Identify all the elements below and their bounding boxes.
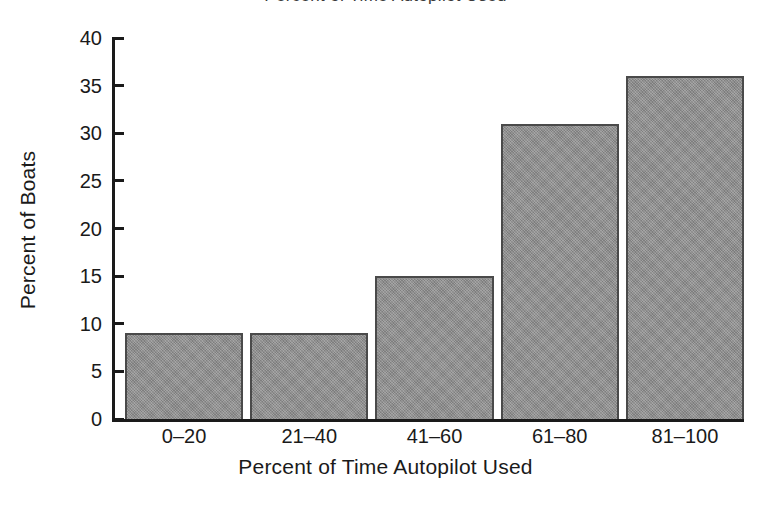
y-tick-label: 20 xyxy=(80,219,102,239)
x-axis-title: Percent of Time Autopilot Used xyxy=(0,455,771,479)
plot-area: 0510152025303540 xyxy=(112,38,744,422)
y-axis-title-text: Percent of Boats xyxy=(16,151,40,309)
y-axis-title: Percent of Boats xyxy=(6,0,50,460)
y-tick-label: 40 xyxy=(80,28,102,48)
y-tick-label: 15 xyxy=(80,266,102,286)
x-tick-label: 21–40 xyxy=(250,424,368,448)
y-tick-label: 35 xyxy=(80,76,102,96)
bar xyxy=(626,76,744,419)
x-tick-label: 0–20 xyxy=(125,424,243,448)
x-axis-line xyxy=(112,419,744,422)
y-tick-label: 10 xyxy=(80,314,102,334)
x-tick-label: 81–100 xyxy=(626,424,744,448)
bar xyxy=(125,333,243,419)
y-tick-label: 5 xyxy=(91,361,102,381)
bar-chart-figure: Percent of Time Autopilot Used Percent o… xyxy=(0,0,771,507)
y-tick-label: 25 xyxy=(80,171,102,191)
y-tick-label: 30 xyxy=(80,123,102,143)
x-tick-label: 41–60 xyxy=(375,424,493,448)
bar xyxy=(501,124,619,419)
bar xyxy=(250,333,368,419)
cropped-title-remnant: Percent of Time Autopilot Used xyxy=(0,0,771,6)
x-tick-label: 61–80 xyxy=(501,424,619,448)
bar-group xyxy=(115,38,744,419)
x-axis-tick-labels: 0–2021–4041–6061–8081–100 xyxy=(112,424,744,454)
y-tick-label: 0 xyxy=(91,409,102,429)
bar xyxy=(375,276,493,419)
